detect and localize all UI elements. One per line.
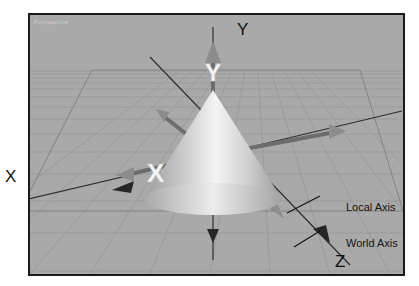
annotation-local-axis: Local Axis [346,201,396,213]
figure-root: Perspective [0,0,419,286]
world-axis-label-x: X [5,168,16,185]
local-y-glyph: Y [205,59,221,86]
annotation-world-axis: World Axis [346,237,398,249]
viewport-3d[interactable]: Perspective [28,13,405,276]
world-axis-label-z: Z [335,253,345,270]
world-axis-label-y: Y [237,21,248,38]
scene-canvas: X Y [30,15,403,274]
local-x-glyph: X [147,158,165,188]
cone-object[interactable] [144,90,282,215]
